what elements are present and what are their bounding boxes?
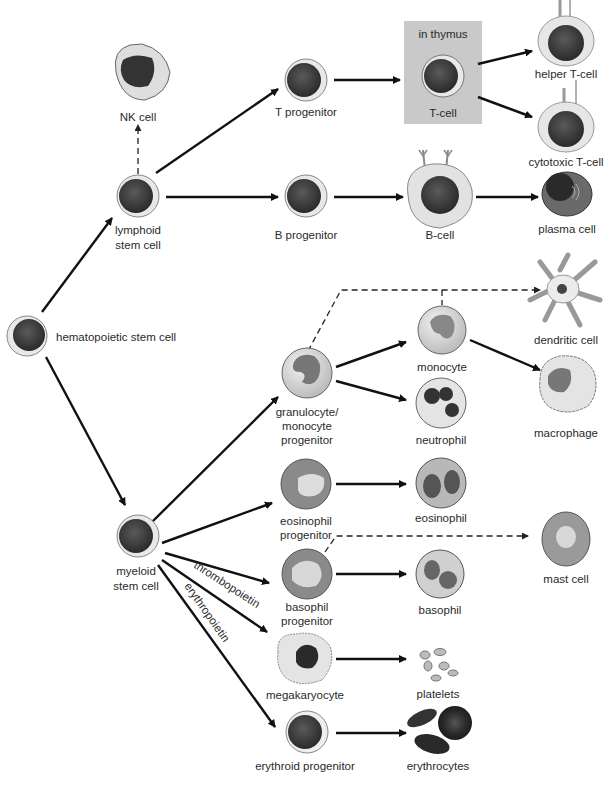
lymphoid-label-2: stem cell — [115, 239, 160, 251]
eosinophil-progenitor-label-2: progenitor — [280, 529, 332, 541]
erythroid-progenitor-cell — [286, 711, 328, 753]
gm-progenitor-label-2: monocyte — [282, 420, 332, 432]
eosinophil-cell — [416, 458, 466, 508]
basophil-progenitor-label-2: progenitor — [281, 615, 333, 627]
t-progenitor-label: T progenitor — [275, 106, 337, 118]
neutrophil-cell — [416, 378, 466, 428]
eosinophil-progenitor-label-1: eosinophil — [280, 515, 332, 527]
myeloid-label-1: myeloid — [116, 565, 156, 577]
cytotoxic-t-cell — [538, 80, 594, 152]
granulocyte-monocyte-progenitor-cell — [282, 348, 332, 398]
nk-cell-label: NK cell — [120, 111, 156, 123]
helper-t-cell-label: helper T-cell — [535, 68, 597, 80]
b-progenitor-label: B progenitor — [275, 229, 338, 241]
t-cell — [422, 55, 464, 97]
hematopoietic-stem-cell — [7, 316, 47, 356]
basophil-label: basophil — [419, 604, 462, 616]
erythrocytes — [405, 705, 472, 757]
platelets-label: platelets — [417, 688, 460, 700]
monocyte-cell — [418, 306, 466, 354]
basophil-progenitor-cell — [282, 549, 332, 599]
hematopoiesis-diagram: in thymus hematopoietic stem cell — [0, 0, 611, 787]
neutrophil-label: neutrophil — [416, 434, 467, 446]
lymphoid-stem-cell — [117, 175, 159, 217]
monocyte-label: monocyte — [417, 361, 467, 373]
erythroid-progenitor-label: erythroid progenitor — [255, 760, 355, 772]
t-progenitor-cell — [285, 59, 327, 101]
b-progenitor-cell — [285, 175, 327, 217]
eosinophil-label: eosinophil — [415, 512, 467, 524]
dendritic-cell-label: dendritic cell — [534, 334, 598, 346]
myeloid-label-2: stem cell — [113, 580, 158, 592]
basophil-progenitor-label-1: basophil — [286, 601, 329, 613]
lymphoid-label-1: lymphoid — [115, 224, 161, 236]
basophil-cell — [416, 550, 464, 598]
mast-cell-label: mast cell — [543, 573, 588, 585]
gm-progenitor-label-3: progenitor — [281, 434, 333, 446]
eosinophil-progenitor-cell — [281, 459, 331, 509]
b-cell — [408, 150, 473, 228]
mast-cell — [542, 512, 590, 566]
dashed-lineage-arrows — [138, 125, 540, 552]
t-cell-label: T-cell — [429, 107, 456, 119]
helper-t-cell — [538, 0, 594, 66]
cytotoxic-t-cell-label: cytotoxic T-cell — [528, 156, 603, 168]
megakaryocyte-cell — [278, 633, 332, 683]
macrophage-cell — [540, 356, 596, 412]
gm-progenitor-label-1: granulocyte/ — [276, 406, 339, 418]
platelets — [420, 649, 458, 682]
macrophage-label: macrophage — [534, 427, 598, 439]
megakaryocyte-label: megakaryocyte — [266, 689, 344, 701]
hsc-label: hematopoietic stem cell — [56, 331, 176, 343]
dendritic-cell — [530, 255, 600, 325]
b-cell-label: B-cell — [426, 229, 455, 241]
erythrocytes-label: erythrocytes — [407, 760, 470, 772]
nk-cell — [115, 44, 170, 100]
myeloid-stem-cell — [117, 515, 159, 557]
plasma-cell — [542, 172, 592, 216]
thymus-box-label: in thymus — [418, 28, 467, 40]
plasma-cell-label: plasma cell — [538, 223, 596, 235]
